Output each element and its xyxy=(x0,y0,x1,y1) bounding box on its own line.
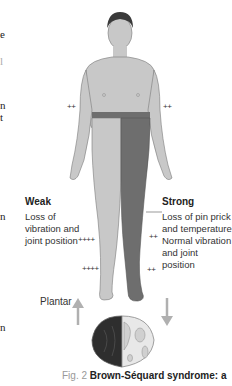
plantar-up-arrow xyxy=(72,298,84,325)
reflex-right-arm: ++ xyxy=(163,102,171,111)
weak-line: Loss of xyxy=(25,211,79,223)
reflex-right-knee: ++ xyxy=(149,232,157,241)
figure-number: Fig. 2 xyxy=(62,370,87,381)
reflex-right-ankle: ++ xyxy=(147,265,155,274)
reflex-left-knee: ++++ xyxy=(78,235,95,244)
strong-line: and joint position xyxy=(162,247,232,271)
reflex-left-arm: ++ xyxy=(67,102,75,111)
body-illustration xyxy=(0,0,232,386)
reflex-left-ankle: ++++ xyxy=(82,264,99,273)
left-arm xyxy=(70,70,92,180)
strong-line: and temperature xyxy=(162,223,232,235)
strong-heading: Strong xyxy=(162,196,232,207)
weak-label: Weak Loss of vibration and joint positio… xyxy=(25,196,79,247)
weak-line: joint position xyxy=(25,235,79,247)
strong-label: Strong Loss of pin prick and temperature… xyxy=(162,196,232,271)
plantar-down-arrow xyxy=(161,298,173,326)
right-leg-affected xyxy=(121,118,150,301)
weak-line: vibration and xyxy=(25,223,79,235)
strong-line: Loss of pin prick xyxy=(162,211,232,223)
strong-line: Normal vibration xyxy=(162,235,232,247)
plantar-label: Plantar xyxy=(40,296,72,308)
spinal-cord-section xyxy=(92,316,154,367)
figure-caption: Fig. 2 Brown-Séquard syndrome: a xyxy=(62,370,227,381)
figure-title: Brown-Séquard syndrome: a xyxy=(90,370,227,381)
weak-heading: Weak xyxy=(25,196,79,207)
right-arm xyxy=(148,70,172,180)
